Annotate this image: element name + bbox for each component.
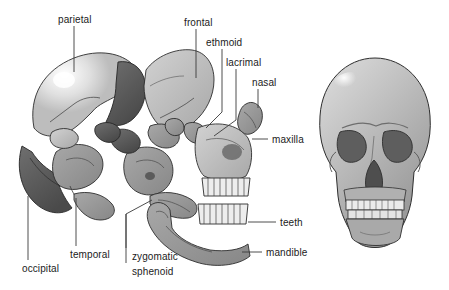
- label-occipital: occipital: [22, 263, 59, 274]
- bone-temporal-squama: [74, 192, 114, 220]
- label-lacrimal: lacrimal: [226, 57, 261, 68]
- teeth-upper: [202, 178, 250, 196]
- bone-maxilla: [195, 124, 252, 181]
- label-parietal: parietal: [58, 14, 92, 25]
- label-sphenoid: sphenoid: [132, 266, 173, 277]
- label-ethmoid: ethmoid: [206, 37, 242, 48]
- label-mandible: mandible: [266, 247, 307, 258]
- label-temporal: temporal: [70, 249, 110, 260]
- leader-zygomatic: [126, 200, 152, 248]
- intact-skull-anterior: [320, 58, 431, 248]
- exploded-skull-lateral: [19, 50, 262, 266]
- bone-nasal: [238, 102, 263, 134]
- label-zygomatic: zygomatic: [132, 251, 178, 262]
- label-frontal: frontal: [184, 17, 213, 28]
- teeth-lower: [198, 204, 248, 224]
- label-maxilla: maxilla: [272, 134, 304, 145]
- label-teeth: teeth: [280, 217, 303, 228]
- label-nasal: nasal: [252, 77, 276, 88]
- bone-sphenoid: [124, 147, 173, 195]
- bone-frontal: [144, 50, 214, 130]
- figure-canvas: parietal frontal ethmoid lacrimal nasal …: [0, 0, 449, 290]
